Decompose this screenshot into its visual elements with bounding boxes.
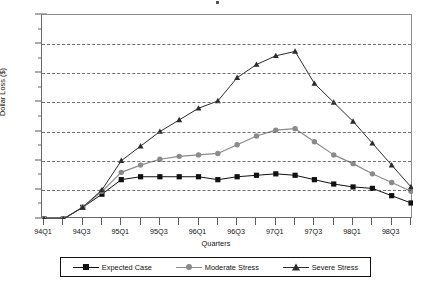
data-point bbox=[196, 174, 201, 179]
data-point bbox=[408, 200, 413, 205]
data-point bbox=[119, 177, 124, 182]
gridline bbox=[42, 44, 411, 45]
series-moderate-stress bbox=[42, 126, 413, 219]
data-point bbox=[177, 174, 182, 179]
plot-area bbox=[41, 14, 412, 218]
data-point bbox=[119, 170, 124, 175]
x-axis-tick-label: 98Q3 bbox=[382, 227, 400, 236]
series-layer bbox=[42, 15, 413, 219]
x-axis-tick-label: 95Q1 bbox=[111, 227, 129, 236]
gridline bbox=[42, 161, 411, 162]
legend-label: Moderate Stress bbox=[205, 263, 259, 272]
x-axis-tick-label: 97Q3 bbox=[305, 227, 323, 236]
gridline bbox=[42, 73, 411, 74]
legend-label: Expected Case bbox=[102, 263, 152, 272]
data-point bbox=[138, 143, 144, 148]
data-point bbox=[253, 61, 259, 66]
gridline bbox=[42, 102, 411, 103]
legend-item-moderate-stress: Moderate Stress bbox=[176, 263, 259, 272]
legend-swatch-circle bbox=[176, 263, 202, 272]
legend-item-severe-stress: Severe Stress bbox=[283, 263, 358, 272]
data-point bbox=[292, 48, 298, 53]
data-point bbox=[293, 173, 298, 178]
data-point bbox=[311, 80, 317, 85]
data-point bbox=[177, 154, 182, 159]
data-point bbox=[235, 174, 240, 179]
data-point bbox=[196, 152, 201, 157]
data-point bbox=[176, 117, 182, 122]
x-axis-title: Quarters bbox=[0, 239, 432, 248]
data-point bbox=[254, 133, 259, 138]
data-point bbox=[292, 126, 297, 131]
data-point bbox=[254, 173, 259, 178]
data-point bbox=[215, 151, 220, 156]
x-axis-tick-label: 96Q1 bbox=[189, 227, 207, 236]
legend-item-expected-case: Expected Case bbox=[73, 263, 152, 272]
gridline bbox=[42, 132, 411, 133]
gridline bbox=[42, 190, 411, 191]
data-point bbox=[312, 139, 317, 144]
legend-swatch-square bbox=[73, 263, 99, 272]
data-point bbox=[331, 181, 336, 186]
data-point bbox=[350, 184, 355, 189]
data-point bbox=[215, 177, 220, 182]
top-page-mark bbox=[216, 1, 219, 4]
y-axis-title: Dollar Loss ($) bbox=[0, 68, 7, 116]
data-point bbox=[389, 193, 394, 198]
x-axis-tick-label: 94Q3 bbox=[73, 227, 91, 236]
chart-legend: Expected Case Moderate Stress Severe Str… bbox=[60, 257, 371, 277]
x-axis-tick-label: 95Q3 bbox=[150, 227, 168, 236]
data-point bbox=[389, 180, 394, 185]
plot-inner bbox=[42, 15, 411, 217]
data-point bbox=[234, 75, 240, 80]
x-axis-tick-label: 94Q1 bbox=[34, 227, 52, 236]
legend-swatch-triangle bbox=[283, 263, 309, 272]
chart-figure: Dollar Loss ($) 020406080100120140 94Q19… bbox=[0, 0, 432, 284]
data-point bbox=[138, 162, 143, 167]
data-point bbox=[273, 171, 278, 176]
series-line bbox=[44, 129, 411, 219]
data-point bbox=[331, 152, 336, 157]
legend-label: Severe Stress bbox=[312, 263, 358, 272]
data-point bbox=[138, 174, 143, 179]
x-axis-tick-label: 98Q1 bbox=[343, 227, 361, 236]
data-point bbox=[370, 171, 375, 176]
data-point bbox=[350, 161, 355, 166]
data-point bbox=[157, 174, 162, 179]
x-axis-tick-label: 97Q1 bbox=[266, 227, 284, 236]
series-line bbox=[44, 174, 411, 219]
data-point bbox=[234, 142, 239, 147]
data-point bbox=[312, 177, 317, 182]
x-axis-tick-label: 96Q3 bbox=[227, 227, 245, 236]
